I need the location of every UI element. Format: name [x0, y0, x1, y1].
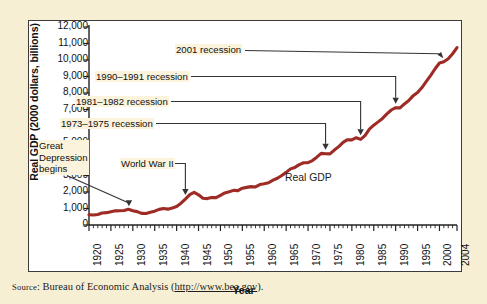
source-suffix: ). — [257, 281, 263, 292]
annotation-line: 2001 recession — [176, 44, 241, 55]
annotation-recession-2001: 2001 recession — [175, 44, 242, 55]
source-label: Source — [12, 282, 37, 292]
annotation-recession-1990-1991: 1990–1991 recession — [95, 71, 189, 82]
figure-container: 01,0002,0003,0004,0005,0006,0007,0008,00… — [0, 0, 487, 304]
annotation-line: 1973–1975 recession — [61, 118, 153, 129]
source-body: : Bureau of Economic Analysis ( — [37, 281, 174, 292]
annotation-line: Great — [39, 140, 88, 152]
series-label-real-gdp: Real GDP — [285, 172, 332, 183]
annotation-line: 1990–1991 recession — [96, 71, 188, 82]
source-note: Source: Bureau of Economic Analysis (htt… — [12, 281, 263, 292]
source-url-link[interactable]: http://www.bea.gov — [174, 281, 257, 292]
annotation-line: World War II — [121, 158, 174, 169]
annotation-line: Depression — [39, 152, 88, 164]
annotation-recession-1973-1975: 1973–1975 recession — [60, 118, 154, 129]
annotation-line: 1981–1982 recession — [76, 96, 168, 107]
annotation-recession-1981-1982: 1981–1982 recession — [75, 96, 169, 107]
annotation-great-depression: GreatDepressionbegins — [38, 140, 89, 175]
annotation-world-war-ii: World War II — [120, 158, 175, 169]
annotation-line: begins — [39, 163, 88, 175]
